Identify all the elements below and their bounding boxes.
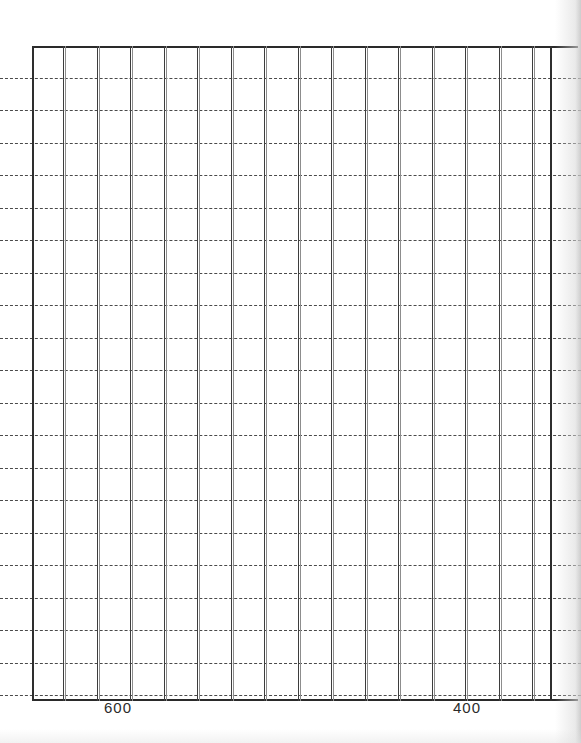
vertical-gridline <box>550 46 552 701</box>
scan-edge-shadow-bottom <box>0 729 581 743</box>
plot-frame-top-rule <box>32 46 578 48</box>
vertical-gridline <box>432 46 433 701</box>
chart-plot-area <box>32 46 578 701</box>
vertical-gridline <box>231 46 232 701</box>
vertical-gridline <box>197 46 198 701</box>
vertical-gridline <box>130 46 131 701</box>
vertical-gridline <box>365 46 366 701</box>
vertical-gridline <box>331 46 332 701</box>
x-tick-label-400: 400 <box>453 699 481 716</box>
x-tick-label-600: 600 <box>104 699 132 716</box>
vertical-gridline <box>264 46 265 701</box>
vertical-gridline <box>398 46 399 701</box>
scanned-chart-page: 600 400 <box>0 0 581 743</box>
vertical-gridline <box>164 46 165 701</box>
vertical-gridline <box>63 46 64 701</box>
vertical-gridline <box>298 46 299 701</box>
vertical-gridline <box>32 46 34 701</box>
vertical-gridline <box>499 46 500 701</box>
vertical-gridline <box>465 46 466 701</box>
vertical-gridline <box>532 46 533 701</box>
vertical-gridline <box>97 46 98 701</box>
x-axis-tick-label-row: 600 400 <box>0 699 581 729</box>
